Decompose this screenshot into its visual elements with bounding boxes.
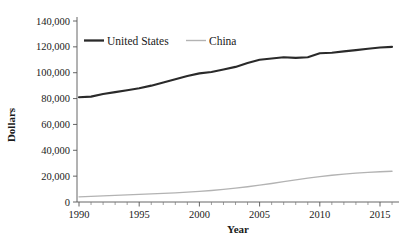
- chart-legend: United StatesChina: [84, 35, 236, 47]
- x-tick-label: 2015: [370, 209, 391, 220]
- x-tick-label: 1995: [129, 209, 150, 220]
- x-axis: 199019952000200520102015: [69, 202, 400, 220]
- chart-canvas: 020,00040,00060,00080,000100,000120,0001…: [0, 0, 417, 239]
- series-line-china: [79, 171, 392, 197]
- x-tick-label: 1990: [69, 209, 90, 220]
- y-tick-label: 120,000: [36, 41, 70, 52]
- legend-label-united-states: United States: [107, 35, 169, 47]
- y-axis: 020,00040,00060,00080,000100,000120,0001…: [36, 16, 77, 208]
- y-tick-label: 0: [65, 197, 70, 208]
- x-tick-label: 2005: [249, 209, 270, 220]
- line-chart: 020,00040,00060,00080,000100,000120,0001…: [0, 0, 417, 239]
- y-tick-label: 140,000: [36, 16, 70, 27]
- y-axis-title: Dollars: [5, 107, 17, 142]
- y-tick-label: 80,000: [41, 93, 70, 104]
- data-series-group: [79, 47, 392, 197]
- series-line-united-states: [79, 47, 392, 97]
- y-tick-label: 40,000: [41, 145, 70, 156]
- y-tick-label: 20,000: [41, 171, 70, 182]
- x-tick-label: 2000: [189, 209, 210, 220]
- x-axis-title: Year: [227, 223, 249, 235]
- legend-label-china: China: [209, 35, 236, 47]
- x-tick-label: 2010: [309, 209, 330, 220]
- y-tick-label: 60,000: [41, 119, 70, 130]
- y-tick-label: 100,000: [36, 67, 70, 78]
